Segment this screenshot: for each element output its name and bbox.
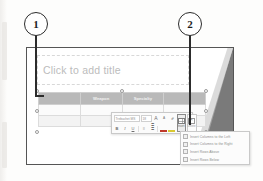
callout-1-leader-foot <box>35 95 44 97</box>
font-color-icon[interactable] <box>160 125 167 132</box>
title-placeholder[interactable]: Click to add title <box>37 55 189 85</box>
menu-item-label: Insert Columns to the Left <box>190 135 230 139</box>
selection-handle-middle-right[interactable] <box>204 109 208 113</box>
mini-toolbar-row-1: Trebuchet MS 18 A A ✐ <box>114 114 176 123</box>
numbering-icon[interactable]: ≣ <box>149 125 156 132</box>
insert-button[interactable]: Insert <box>177 114 186 132</box>
bullets-icon[interactable]: ≡ <box>141 125 148 132</box>
menu-item-label: Insert Rows Below <box>190 158 219 162</box>
table-cell[interactable] <box>39 116 81 127</box>
annotation-callout-2-number: 2 <box>187 19 193 30</box>
shrink-font-icon[interactable]: A <box>161 115 168 122</box>
insert-button-label: Insert <box>178 124 185 128</box>
selection-handle-middle-left[interactable] <box>35 109 39 113</box>
scan-artifact <box>2 122 7 168</box>
table-header-cell[interactable] <box>164 93 206 105</box>
insert-table-icon <box>178 118 185 124</box>
insert-rows-below-icon <box>183 157 188 162</box>
title-placeholder-text: Click to add title <box>43 64 121 76</box>
scan-artifact <box>2 22 7 80</box>
menu-item-insert-columns-left[interactable]: Insert Columns to the Left <box>181 133 249 141</box>
font-size-input[interactable]: 18 <box>141 115 152 122</box>
selection-handle-top-center[interactable] <box>120 89 124 93</box>
callout-2-leader-line <box>189 35 191 125</box>
table-header-cell[interactable]: Specialty <box>122 93 164 105</box>
menu-item-insert-rows-above[interactable]: Insert Rows Above <box>181 148 249 156</box>
scanned-page-background: Click to add title Weapon Specialty <box>0 0 263 181</box>
insert-dropdown-menu[interactable]: Insert Columns to the Left Insert Column… <box>180 131 250 165</box>
mini-toolbar-row-2: B I U ≡ ≣ <box>114 124 176 133</box>
menu-item-label: Insert Rows Above <box>190 150 219 154</box>
table-cell[interactable] <box>39 105 81 116</box>
underline-icon[interactable]: U <box>130 125 137 132</box>
insert-columns-right-icon <box>183 142 188 147</box>
table-header-cell[interactable]: Weapon <box>80 93 122 105</box>
callout-1-leader-line <box>35 35 37 97</box>
insert-rows-above-icon <box>183 149 188 154</box>
italic-icon[interactable]: I <box>122 125 129 132</box>
grow-font-icon[interactable]: A <box>153 115 160 122</box>
menu-item-insert-rows-below[interactable]: Insert Rows Below <box>181 156 249 164</box>
annotation-callout-1: 1 <box>24 12 48 36</box>
text-highlight-icon[interactable] <box>168 125 175 132</box>
format-painter-icon[interactable]: ✐ <box>169 115 176 122</box>
annotation-callout-1-number: 1 <box>33 19 39 30</box>
menu-item-label: Insert Columns to the Right <box>190 142 232 146</box>
table-header-row: Weapon Specialty <box>39 93 206 105</box>
selection-handle-bottom-left[interactable] <box>35 130 39 134</box>
selection-handle-top-right[interactable] <box>204 89 208 93</box>
menu-item-insert-columns-right[interactable]: Insert Columns to the Right <box>181 141 249 149</box>
table-header-cell[interactable] <box>39 93 81 105</box>
toolbar-divider <box>157 126 158 132</box>
toolbar-divider <box>138 126 139 132</box>
bold-icon[interactable]: B <box>114 125 121 132</box>
insert-columns-left-icon <box>183 134 188 139</box>
delete-button[interactable]: Delete <box>187 114 197 132</box>
font-name-input[interactable]: Trebuchet MS <box>114 115 140 122</box>
annotation-callout-2: 2 <box>178 12 202 36</box>
